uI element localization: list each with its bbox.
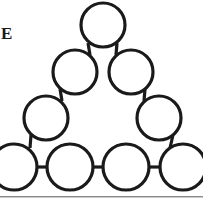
node-row4-second[interactable]: [47, 144, 93, 190]
node-row4-third[interactable]: [103, 144, 149, 190]
node-apex[interactable]: [81, 3, 125, 47]
node-row4-fourth[interactable]: [160, 144, 203, 190]
node-row2-right[interactable]: [109, 50, 153, 94]
node-row3-right[interactable]: [137, 96, 181, 140]
figure-label-e: E: [1, 25, 12, 42]
node-row2-left[interactable]: [53, 50, 97, 94]
bottom-horizontal-rule: [0, 196, 203, 198]
edge-left3-to-bottom1: [30, 135, 31, 148]
figure-canvas: E: [0, 0, 203, 207]
node-row4-first[interactable]: [0, 144, 37, 190]
triangle-circle-diagram: [0, 0, 203, 207]
node-layer: [0, 3, 203, 190]
node-row3-left[interactable]: [24, 96, 68, 140]
